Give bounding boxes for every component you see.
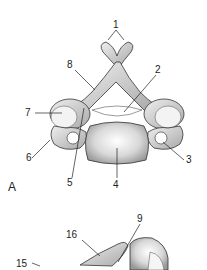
callout-9: 9	[137, 214, 143, 224]
vertebra-superior-view	[32, 30, 184, 178]
panel-label-a: A	[8, 180, 16, 194]
callout-4: 4	[113, 180, 119, 190]
callout-3: 3	[186, 155, 192, 165]
callout-1: 1	[113, 20, 119, 30]
callout-8: 8	[67, 60, 73, 70]
callout-15: 15	[16, 259, 27, 269]
callout-5: 5	[67, 178, 73, 188]
callout-6: 6	[26, 153, 32, 163]
callout-16: 16	[66, 230, 77, 240]
vertebra-lateral-view	[32, 224, 168, 270]
callout-7: 7	[25, 108, 31, 118]
vertebra-diagram	[0, 0, 207, 270]
callout-2: 2	[155, 65, 161, 75]
